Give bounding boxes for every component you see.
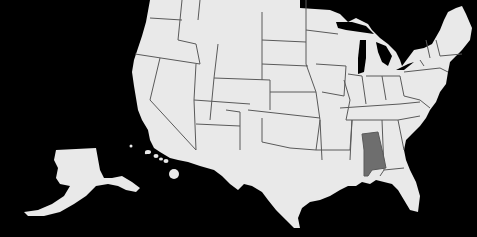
- channel-islands: [130, 145, 148, 155]
- us-map: [0, 0, 477, 237]
- contiguous-us-landmass: [132, 0, 472, 228]
- alaska-landmass: [24, 148, 140, 216]
